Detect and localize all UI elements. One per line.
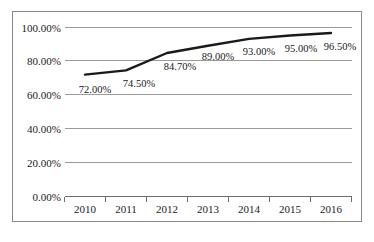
line-chart-figure: 100.00% 80.00% 60.00% 40.00% 20.00% 0.00… [12,11,362,222]
y-axis-labels-group: 100.00% 80.00% 60.00% 40.00% 20.00% 0.00… [22,22,61,203]
y-axis-label-80: 80.00% [27,55,61,67]
x-axis-label-2014: 2014 [238,203,261,215]
data-label-2014: 93.00% [243,46,276,57]
x-axis-label-2013: 2013 [197,203,220,215]
data-labels-group: 72.00% 74.50% 84.70% 89.00% 93.00% 95.00… [79,41,357,95]
x-axis-label-2010: 2010 [74,203,97,215]
x-axis-label-2011: 2011 [115,203,137,215]
y-axis-label-60: 60.00% [27,89,61,101]
x-axis-ticks-group [65,197,352,202]
y-axis-label-20: 20.00% [27,157,61,169]
data-label-2010: 72.00% [79,84,112,95]
x-axis-label-2012: 2012 [156,203,178,215]
x-axis-label-2015: 2015 [279,203,302,215]
chart-plot-area: 100.00% 80.00% 60.00% 40.00% 20.00% 0.00… [13,12,363,223]
y-axis-label-100: 100.00% [22,22,61,34]
data-label-2015: 95.00% [285,43,318,54]
data-label-2013: 89.00% [202,51,235,62]
x-axis-labels-group: 2010 2011 2012 2013 2014 2015 2016 [74,203,343,215]
y-axis-label-40: 40.00% [27,123,61,135]
data-label-2012: 84.70% [164,61,197,72]
y-axis-label-0: 0.00% [33,191,61,203]
data-label-2011: 74.50% [123,78,156,89]
data-label-2016: 96.50% [324,41,357,52]
x-axis-label-2016: 2016 [320,203,343,215]
